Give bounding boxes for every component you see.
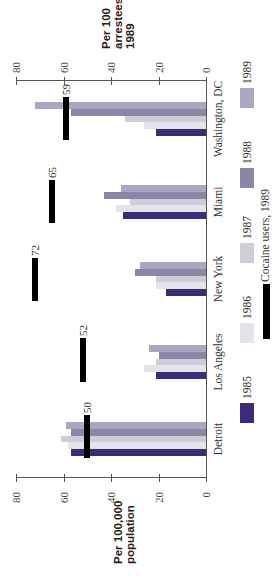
primary-axis-tick bbox=[111, 474, 112, 482]
bar-1987[interactable] bbox=[125, 116, 206, 123]
bar-1986[interactable] bbox=[156, 282, 206, 289]
secondary-axis-tick bbox=[159, 77, 160, 85]
legend-label-cocaine-users: Cocaine users, 1989 bbox=[259, 189, 272, 282]
legend-swatch-1986 bbox=[240, 323, 254, 343]
overlay-marker-label: 59 bbox=[60, 79, 72, 95]
bar-1988[interactable] bbox=[104, 192, 206, 199]
overlay-marker-label: 50 bbox=[81, 397, 93, 413]
category-label: New York bbox=[212, 234, 225, 324]
bar-1986[interactable] bbox=[144, 122, 206, 129]
secondary-axis-tick bbox=[16, 77, 17, 85]
bar-1989[interactable] bbox=[149, 345, 206, 352]
overlay-marker-label: 52 bbox=[77, 320, 89, 336]
baseline bbox=[206, 81, 207, 478]
primary-axis-tick bbox=[16, 474, 17, 482]
legend-swatch-1985 bbox=[240, 403, 254, 423]
legend-label-1989: 1989 bbox=[241, 61, 254, 84]
secondary-axis-tick bbox=[206, 77, 207, 85]
bar-1987[interactable] bbox=[156, 359, 206, 366]
category-label: Los Angeles bbox=[212, 317, 225, 407]
legend-swatch-1989 bbox=[240, 88, 254, 108]
chart-stage: 020406080020406080Per 100,000populationP… bbox=[0, 0, 278, 576]
secondary-axis-tick-label: 20 bbox=[153, 43, 165, 73]
bar-1985[interactable] bbox=[123, 212, 206, 219]
bar-1987[interactable] bbox=[130, 199, 206, 206]
overlay-marker-cocaine[interactable] bbox=[32, 258, 38, 301]
primary-axis-tick bbox=[206, 474, 207, 482]
category-label: Detroit bbox=[212, 394, 225, 484]
primary-axis-title-line: population bbox=[124, 501, 136, 564]
bar-1988[interactable] bbox=[71, 429, 206, 436]
overlay-marker-label: 72 bbox=[29, 240, 41, 256]
legend-swatch-1987 bbox=[240, 243, 254, 263]
secondary-axis-title: Per 100arrestees1989 bbox=[100, 0, 136, 49]
secondary-axis-title-line: Per 100 bbox=[100, 0, 112, 49]
bar-1989[interactable] bbox=[35, 102, 206, 109]
bar-1985[interactable] bbox=[156, 372, 206, 379]
bar-1987[interactable] bbox=[61, 436, 206, 443]
bar-1988[interactable] bbox=[71, 109, 206, 116]
secondary-axis-tick bbox=[111, 77, 112, 85]
bar-1985[interactable] bbox=[71, 449, 206, 456]
bar-1987[interactable] bbox=[156, 276, 206, 283]
bar-1988[interactable] bbox=[159, 352, 207, 359]
primary-axis-tick bbox=[64, 474, 65, 482]
primary-axis-tick bbox=[159, 474, 160, 482]
legend-swatch-1988 bbox=[240, 168, 254, 188]
bar-1986[interactable] bbox=[116, 205, 206, 212]
bar-1989[interactable] bbox=[140, 262, 207, 269]
overlay-marker-cocaine[interactable] bbox=[49, 180, 55, 223]
bar-1985[interactable] bbox=[156, 129, 206, 136]
bar-1986[interactable] bbox=[144, 365, 206, 372]
primary-axis-tick-label: 60 bbox=[58, 492, 70, 522]
category-label: Miami bbox=[212, 157, 225, 247]
legend-label-1986: 1986 bbox=[241, 296, 254, 319]
primary-axis-title: Per 100,000population bbox=[112, 501, 136, 564]
secondary-axis-title-line: 1989 bbox=[124, 0, 136, 49]
primary-axis-tick-label: 0 bbox=[200, 492, 212, 522]
bar-1988[interactable] bbox=[135, 269, 206, 276]
bar-1985[interactable] bbox=[166, 289, 206, 296]
primary-axis-title-line: Per 100,000 bbox=[112, 501, 124, 564]
overlay-marker-cocaine[interactable] bbox=[80, 338, 86, 382]
bar-1989[interactable] bbox=[121, 185, 207, 192]
secondary-axis-tick-label: 60 bbox=[58, 43, 70, 73]
overlay-marker-cocaine[interactable] bbox=[84, 415, 90, 458]
secondary-axis-tick-label: 0 bbox=[200, 43, 212, 73]
secondary-axis-title-line: arrestees bbox=[112, 0, 124, 49]
legend-swatch-cocaine-users bbox=[263, 284, 270, 339]
overlay-marker-cocaine[interactable] bbox=[63, 97, 69, 140]
secondary-axis-tick-label: 80 bbox=[10, 43, 22, 73]
legend-label-1985: 1985 bbox=[241, 376, 254, 399]
primary-axis-tick-label: 80 bbox=[10, 492, 22, 522]
legend-label-1988: 1988 bbox=[241, 141, 254, 164]
category-label: Washington, DC bbox=[212, 74, 225, 164]
legend-label-1987: 1987 bbox=[241, 216, 254, 239]
overlay-marker-label: 65 bbox=[46, 162, 58, 178]
primary-axis-tick-label: 20 bbox=[153, 492, 165, 522]
